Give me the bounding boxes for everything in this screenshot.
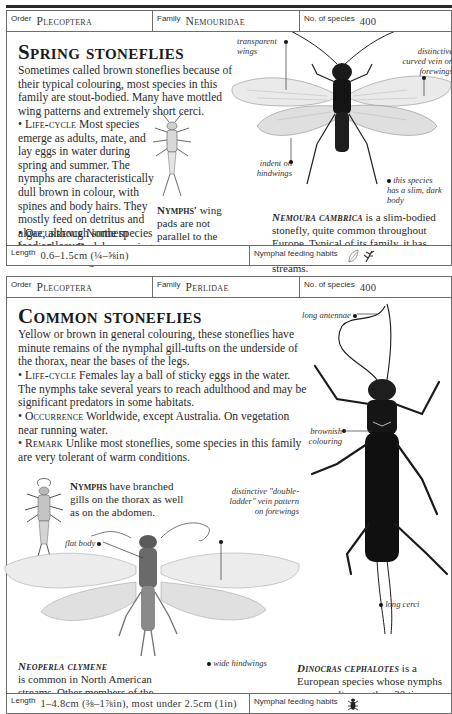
order-cell: Order Plecoptera xyxy=(7,11,153,31)
nymph-caption-key: Nymphs xyxy=(70,480,107,492)
family-label: Family xyxy=(157,280,181,289)
annotation-wide-hindwings: wide hindwings xyxy=(207,658,267,668)
species-count-cell: No. of species 400 xyxy=(300,277,451,297)
species-count-value: 400 xyxy=(360,16,377,27)
annotation-long-antennae: long antennae xyxy=(302,310,357,320)
section-remark: • Remark Unlike most stoneflies, some sp… xyxy=(18,437,308,464)
annotation-indent-hindwings: indent on hindwings xyxy=(244,158,292,178)
entry-common-stoneflies: Order Plecoptera Family Perlidae No. of … xyxy=(6,276,452,714)
nymph-caption-key: Nymphs' xyxy=(157,204,197,216)
species-count-label: No. of species xyxy=(304,280,355,289)
feeding-habits-cell: Nymphal feeding habits xyxy=(250,694,451,713)
nymph-illustration xyxy=(147,112,197,202)
species-name: Neoperla clymene xyxy=(18,660,107,672)
section-life-cycle: • Life-cycle Females lay a ball of stick… xyxy=(18,369,308,410)
order-label: Order xyxy=(11,14,31,23)
section-key: Remark xyxy=(25,437,63,450)
top-rule xyxy=(6,5,452,8)
species-count-cell: No. of species 400 xyxy=(300,11,451,31)
order-value: Plecoptera xyxy=(36,15,92,27)
neoperla-clymene-photo xyxy=(1,516,301,666)
annotation-flat-body: flat body xyxy=(65,538,101,548)
classification-header: Order Plecoptera Family Perlidae No. of … xyxy=(7,276,451,298)
section-key: Life-cycle xyxy=(25,118,76,131)
annotation-double-ladder-vein: distinctive "double-ladder" vein pattern… xyxy=(219,486,299,516)
entry-title: Common stoneflies xyxy=(18,304,202,329)
length-label: Length xyxy=(11,696,35,705)
annotation-long-cerci: long cerci xyxy=(379,599,419,609)
entry-intro: Sometimes called brown stoneflies becaus… xyxy=(18,64,233,118)
order-value: Plecoptera xyxy=(36,281,92,293)
entry-footer: Length 0.6–1.5cm (¼–⅝in) Nymphal feeding… xyxy=(7,245,451,266)
entry-spring-stoneflies: Order Plecoptera Family Nemouridae No. o… xyxy=(6,10,452,266)
species-name: Dinocras cephalotes xyxy=(297,662,399,674)
feeding-habits-label: Nymphal feeding habits xyxy=(254,249,338,258)
leader-line xyxy=(284,40,288,90)
leader-line xyxy=(289,138,293,164)
leader-line xyxy=(422,76,426,96)
family-cell: Family Perlidae xyxy=(153,277,300,297)
feeding-habits-label: Nymphal feeding habits xyxy=(254,697,338,706)
leader-line xyxy=(342,429,372,433)
leader-line xyxy=(219,540,223,580)
dinocras-cephalotes-photo xyxy=(307,304,452,634)
annotation-transparent-wings: transparent wings xyxy=(237,36,277,56)
section-key: Life-cycle xyxy=(25,369,76,382)
annotation-curved-vein: distinctive curved vein on forewings xyxy=(397,46,452,76)
entry-title: Spring stoneflies xyxy=(18,40,184,65)
species-count-label: No. of species xyxy=(304,14,355,23)
length-value: 1–4.8cm (⅜–1⅞in), most under 2.5cm (1in) xyxy=(40,698,236,709)
entry-intro: Yellow or brown in general colouring, th… xyxy=(18,328,308,369)
family-cell: Family Nemouridae xyxy=(153,11,300,31)
plant-detritus-icon xyxy=(363,249,375,263)
length-cell: Length 1–4.8cm (⅜–1⅞in), most under 2.5c… xyxy=(7,694,250,713)
annotation-brownish-colouring: brownish colouring xyxy=(297,426,342,446)
predator-insect-icon xyxy=(347,697,359,711)
classification-header: Order Plecoptera Family Nemouridae No. o… xyxy=(7,10,451,32)
order-cell: Order Plecoptera xyxy=(7,277,153,297)
species-name: Nemoura cambrica xyxy=(272,211,363,223)
entry-footer: Length 1–4.8cm (⅜–1⅞in), most under 2.5c… xyxy=(7,693,451,714)
feeding-habits-cell: Nymphal feeding habits xyxy=(250,246,451,265)
order-label: Order xyxy=(11,280,31,289)
intro-text: Sometimes called brown stoneflies becaus… xyxy=(18,64,232,118)
family-label: Family xyxy=(157,14,181,23)
leader-line xyxy=(357,312,377,316)
species-count-value: 400 xyxy=(360,282,377,293)
intro-text: Yellow or brown in general colouring, th… xyxy=(18,328,298,368)
length-label: Length xyxy=(11,248,35,257)
annotation-slim-dark-body: this species has a slim, dark body xyxy=(387,175,443,205)
family-value: Perlidae xyxy=(186,281,229,293)
section-occurrence: • Occurrence Worldwide, except Australia… xyxy=(18,410,308,437)
family-value: Nemouridae xyxy=(186,15,245,27)
length-cell: Length 0.6–1.5cm (¼–⅝in) xyxy=(7,246,250,265)
section-key: Occurrence xyxy=(25,227,83,240)
leaf-icon xyxy=(347,249,359,263)
leader-line xyxy=(103,542,143,558)
section-key: Occurrence xyxy=(25,410,83,423)
length-value: 0.6–1.5cm (¼–⅝in) xyxy=(40,250,128,261)
nymph-caption: Nymphs have branched gills on the thorax… xyxy=(70,480,195,518)
